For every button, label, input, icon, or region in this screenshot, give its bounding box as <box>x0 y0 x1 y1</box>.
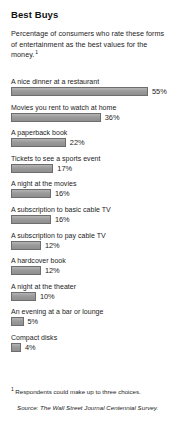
bar-line: 16% <box>11 215 70 224</box>
bar-value-label: 36% <box>105 113 120 122</box>
bar-row: A night at the movies16% <box>0 179 178 205</box>
bar <box>11 215 51 224</box>
bar-line: 17% <box>11 164 72 173</box>
bar-row: Movies you rent to watch at home36% <box>0 103 178 129</box>
source-note: Source: The Wall Street Journal Centenni… <box>17 403 177 412</box>
bar-value-label: 4% <box>25 343 36 352</box>
bar-value-label: 55% <box>152 87 167 96</box>
bar-category-label: Movies you rent to watch at home <box>11 103 116 112</box>
bar-category-label: A paperback book <box>11 128 67 137</box>
bar-value-label: 22% <box>70 138 85 147</box>
chart-figure: Best Buys Percentage of consumers who ra… <box>0 0 178 427</box>
bar <box>11 292 36 301</box>
bar-row: A hardcover book12% <box>0 256 178 282</box>
bar-line: 12% <box>11 266 60 275</box>
chart-subtitle: Percentage of consumers who rate these f… <box>11 29 167 61</box>
bar <box>11 343 21 352</box>
chart-subtitle-text: Percentage of consumers who rate these f… <box>11 29 164 59</box>
bar-value-label: 16% <box>55 215 70 224</box>
bar-value-label: 10% <box>40 292 55 301</box>
bar-line: 16% <box>11 189 70 198</box>
bar-category-label: A subscription to basic cable TV <box>11 205 111 214</box>
bar-value-label: 12% <box>45 241 60 250</box>
footnote: 1Respondents could make up to three choi… <box>11 387 171 396</box>
bar-category-label: A night at the theater <box>11 282 76 291</box>
bar-row: An evening at a bar or lounge5% <box>0 307 178 333</box>
bar-row: A paperback book22% <box>0 128 178 154</box>
bar-row: A subscription to basic cable TV16% <box>0 205 178 231</box>
bar-row: Tickets to see a sports event17% <box>0 154 178 180</box>
bar <box>11 266 41 275</box>
bar-value-label: 12% <box>45 266 60 275</box>
bar-line: 22% <box>11 138 85 147</box>
bar-line: 12% <box>11 241 60 250</box>
bar-rows: A nice dinner at a restaurant55%Movies y… <box>0 77 178 359</box>
footnote-marker: 1 <box>11 386 14 392</box>
bar <box>11 138 66 147</box>
footnote-text: Respondents could make up to three choic… <box>15 388 141 395</box>
bar-category-label: An evening at a bar or lounge <box>11 307 103 316</box>
bar <box>11 241 41 250</box>
bar-row: Compact disks4% <box>0 333 178 359</box>
bar <box>11 189 51 198</box>
bar-line: 4% <box>11 343 36 352</box>
bar-row: A night at the theater10% <box>0 282 178 308</box>
footnote-reference-marker: 1 <box>35 49 38 55</box>
bar-category-label: A hardcover book <box>11 256 66 265</box>
bar-category-label: A night at the movies <box>11 179 76 188</box>
bar-line: 36% <box>11 113 119 122</box>
bar-line: 5% <box>11 317 38 326</box>
bar <box>11 317 24 326</box>
bar-category-label: Tickets to see a sports event <box>11 154 100 163</box>
bar <box>11 87 148 96</box>
bar-row: A subscription to pay cable TV12% <box>0 231 178 257</box>
bar-value-label: 17% <box>57 164 72 173</box>
bar-category-label: A nice dinner at a restaurant <box>11 77 99 86</box>
bar-category-label: A subscription to pay cable TV <box>11 231 106 240</box>
bar-line: 10% <box>11 292 55 301</box>
bar-row: A nice dinner at a restaurant55% <box>0 77 178 103</box>
bar-value-label: 16% <box>55 189 70 198</box>
bar-value-label: 5% <box>28 317 39 326</box>
bar-line: 55% <box>11 87 167 96</box>
page-title: Best Buys <box>11 9 58 20</box>
bar <box>11 164 53 173</box>
bar-category-label: Compact disks <box>11 333 57 342</box>
bar <box>11 113 101 122</box>
